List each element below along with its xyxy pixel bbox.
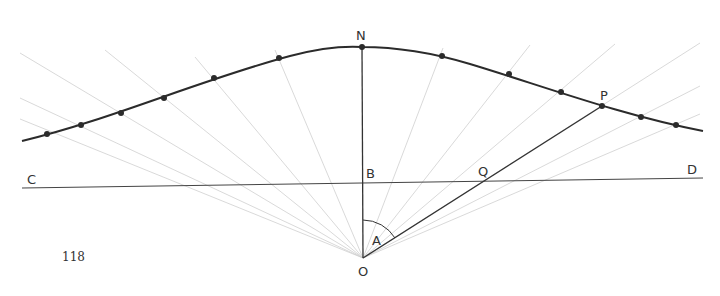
- label-n: N: [356, 28, 366, 43]
- label-q: Q: [478, 164, 488, 179]
- label-d: D: [687, 162, 697, 177]
- line-on: [362, 47, 363, 258]
- label-c: C: [27, 172, 36, 187]
- label-b: B: [366, 166, 375, 181]
- label-p: P: [600, 88, 608, 103]
- page-number: 118: [62, 250, 85, 264]
- label-a: A: [372, 233, 381, 248]
- label-o: O: [358, 264, 368, 279]
- projection-rays: [20, 43, 700, 258]
- geometry-figure: N C B Q D P A O 118: [0, 0, 720, 296]
